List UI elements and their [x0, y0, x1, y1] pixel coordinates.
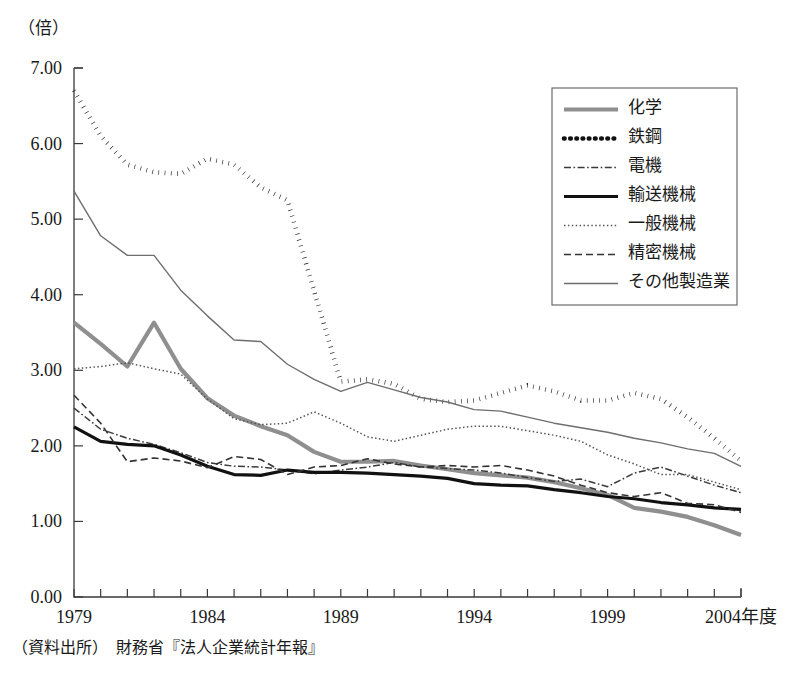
x-axis-tick-label: 1984: [189, 607, 225, 627]
legend-item-label: 一般機械: [628, 214, 696, 233]
legend-item-label: 化学: [628, 98, 662, 117]
y-axis-tick-label: 0.00: [31, 587, 63, 607]
legend-item-label: 鉄鋼: [628, 127, 662, 146]
x-axis-tick-label: 1989: [323, 607, 359, 627]
chart-figure: （倍） 0.001.002.003.004.005.006.007.00 197…: [0, 0, 802, 680]
y-axis-tick-label: 1.00: [31, 511, 63, 531]
y-axis-tick-label: 2.00: [31, 436, 63, 456]
x-axis-tick-label: 1979: [56, 607, 92, 627]
y-axis-tick-label: 3.00: [31, 360, 63, 380]
series-line: [74, 363, 741, 490]
source-note: （資料出所） 財務省『法人企業統計年報』: [12, 634, 324, 658]
y-axis-tick-label: 6.00: [31, 134, 63, 154]
y-axis-tick-label: 5.00: [31, 209, 63, 229]
chart-legend: 化学鉄鋼電機輸送機械一般機械精密機械その他製造業: [552, 88, 737, 305]
legend-item-label: 電機: [628, 156, 662, 175]
x-axis-tick-label: 2004年度: [705, 607, 777, 627]
series-line: [74, 408, 741, 493]
legend-item-label: 精密機械: [628, 243, 696, 262]
x-axis-tick-label: 1999: [590, 607, 626, 627]
x-axis-ticks: 197919841989199419992004年度: [56, 589, 777, 627]
y-axis-tick-label: 4.00: [31, 285, 63, 305]
series-line: [74, 323, 741, 535]
line-chart-plot: 0.001.002.003.004.005.006.007.00 1979198…: [0, 0, 802, 680]
legend-item-label: その他製造業: [628, 272, 730, 291]
x-axis-tick-label: 1994: [456, 607, 492, 627]
y-axis-ticks: 0.001.002.003.004.005.006.007.00: [31, 58, 84, 607]
legend-item-label: 輸送機械: [628, 185, 696, 204]
y-axis-tick-label: 7.00: [31, 58, 63, 78]
